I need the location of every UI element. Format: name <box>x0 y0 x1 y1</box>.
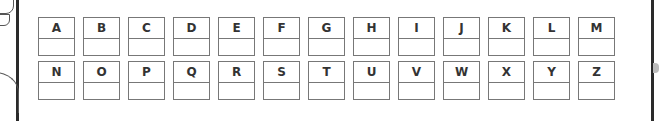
answer-blank[interactable] <box>534 83 569 99</box>
answer-blank[interactable] <box>174 39 209 55</box>
answer-blank[interactable] <box>444 83 479 99</box>
decorative-curve <box>0 0 14 14</box>
answer-blank[interactable] <box>309 83 344 99</box>
decorative-curve <box>0 14 10 26</box>
alphabet-row-1: ABCDEFGHIJKLM <box>38 17 615 56</box>
letter-box: E <box>218 17 255 56</box>
letter-label: X <box>489 62 524 83</box>
letter-label: G <box>309 18 344 39</box>
letter-label: I <box>399 18 434 39</box>
letter-box: R <box>218 61 255 100</box>
letter-label: U <box>354 62 389 83</box>
letter-label: Z <box>579 62 614 83</box>
answer-blank[interactable] <box>489 83 524 99</box>
letter-box: Q <box>173 61 210 100</box>
letter-label: O <box>84 62 119 83</box>
letter-label: T <box>309 62 344 83</box>
letter-box: G <box>308 17 345 56</box>
answer-blank[interactable] <box>309 39 344 55</box>
answer-blank[interactable] <box>84 83 119 99</box>
letter-label: Q <box>174 62 209 83</box>
letter-label: B <box>84 18 119 39</box>
letter-label: P <box>129 62 164 83</box>
letter-box: T <box>308 61 345 100</box>
answer-blank[interactable] <box>264 83 299 99</box>
letter-box: H <box>353 17 390 56</box>
letter-box: I <box>398 17 435 56</box>
letter-label: W <box>444 62 479 83</box>
letter-box: J <box>443 17 480 56</box>
letter-label: A <box>39 18 74 39</box>
answer-blank[interactable] <box>489 39 524 55</box>
letter-box: P <box>128 61 165 100</box>
answer-blank[interactable] <box>219 39 254 55</box>
letter-label: H <box>354 18 389 39</box>
answer-blank[interactable] <box>399 83 434 99</box>
letter-box: Z <box>578 61 615 100</box>
letter-box: F <box>263 17 300 56</box>
letter-box: K <box>488 17 525 56</box>
letter-label: N <box>39 62 74 83</box>
letter-label: F <box>264 18 299 39</box>
answer-blank[interactable] <box>579 39 614 55</box>
answer-blank[interactable] <box>534 39 569 55</box>
letter-label: C <box>129 18 164 39</box>
answer-blank[interactable] <box>399 39 434 55</box>
answer-blank[interactable] <box>264 39 299 55</box>
answer-blank[interactable] <box>39 39 74 55</box>
answer-blank[interactable] <box>354 39 389 55</box>
answer-blank[interactable] <box>129 39 164 55</box>
letter-box: L <box>533 17 570 56</box>
letter-box: N <box>38 61 75 100</box>
letter-label: D <box>174 18 209 39</box>
letter-box: M <box>578 17 615 56</box>
alphabet-grid: ABCDEFGHIJKLM NOPQRSTUVWXYZ <box>38 17 615 105</box>
answer-blank[interactable] <box>444 39 479 55</box>
letter-label: V <box>399 62 434 83</box>
letter-box: B <box>83 17 120 56</box>
answer-blank[interactable] <box>39 83 74 99</box>
answer-blank[interactable] <box>84 39 119 55</box>
answer-blank[interactable] <box>174 83 209 99</box>
letter-label: Y <box>534 62 569 83</box>
letter-label: K <box>489 18 524 39</box>
alphabet-row-2: NOPQRSTUVWXYZ <box>38 61 615 100</box>
letter-label: S <box>264 62 299 83</box>
letter-box: U <box>353 61 390 100</box>
letter-box: D <box>173 17 210 56</box>
letter-label: E <box>219 18 254 39</box>
letter-box: A <box>38 17 75 56</box>
letter-box: V <box>398 61 435 100</box>
letter-box: Y <box>533 61 570 100</box>
letter-box: X <box>488 61 525 100</box>
answer-blank[interactable] <box>354 83 389 99</box>
letter-label: M <box>579 18 614 39</box>
letter-box: O <box>83 61 120 100</box>
answer-blank[interactable] <box>129 83 164 99</box>
letter-label: J <box>444 18 479 39</box>
letter-label: L <box>534 18 569 39</box>
answer-blank[interactable] <box>219 83 254 99</box>
letter-box: C <box>128 17 165 56</box>
decorative-knob <box>653 63 659 73</box>
letter-label: R <box>219 62 254 83</box>
answer-blank[interactable] <box>579 83 614 99</box>
letter-box: W <box>443 61 480 100</box>
letter-box: S <box>263 61 300 100</box>
right-border-line <box>651 0 654 121</box>
